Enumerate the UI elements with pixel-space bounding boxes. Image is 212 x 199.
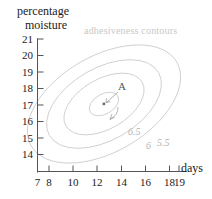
contour-plot: percentage moisture days adhesiveness co… [0,0,212,199]
y-axis-title-line2: moisture [25,19,67,31]
contour-value-label: 5.5 [157,137,170,148]
contour-set-title: adhesiveness contours [84,26,177,36]
x-axis-title: days [181,162,203,174]
axes [38,39,187,172]
x-tick-label: 8 [38,176,60,188]
x-tick-label: 19 [169,176,191,188]
x-tick-label: 10 [62,176,84,188]
y-tick-label: 19 [11,66,33,78]
optimum-leader-arrow [106,92,118,103]
contour-value-label: 6 [146,140,151,151]
x-tick-label: 16 [135,176,157,188]
y-tick-label: 21 [11,33,33,45]
optimum-point-marker [103,103,106,106]
optimum-point-label: A [118,80,126,92]
y-tick-label: 20 [11,49,33,61]
y-tick-label: 14 [11,148,33,160]
contour-value-label: 6.5 [128,126,141,137]
x-tick-label: 12 [86,176,108,188]
y-tick-label: 15 [11,132,33,144]
y-tick-label: 18 [11,82,33,94]
y-axis-title-line1: percentage [17,5,69,17]
y-tick-label: 17 [11,99,33,111]
x-tick-label: 14 [111,176,133,188]
y-tick-label: 16 [11,115,33,127]
